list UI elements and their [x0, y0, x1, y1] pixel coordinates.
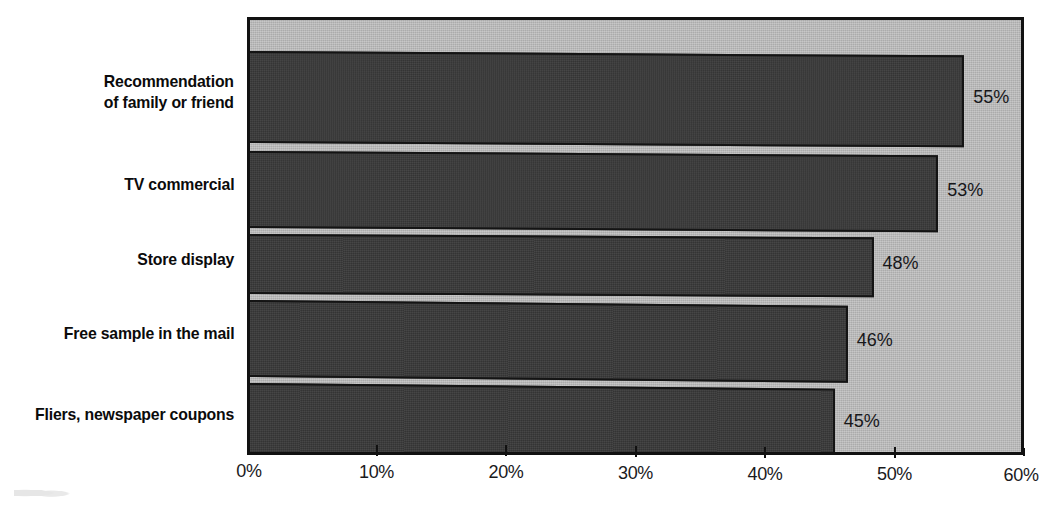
- x-axis-tick-label: 10%: [359, 462, 394, 483]
- category-label-line: Free sample in the mail: [63, 323, 234, 344]
- category-label: TV commercial: [124, 174, 234, 195]
- x-axis-tick-label: 40%: [747, 464, 782, 485]
- category-label-line: Fliers, newspaper coupons: [35, 404, 234, 425]
- x-axis-tick: [1023, 448, 1025, 456]
- bar: [248, 300, 848, 383]
- x-axis-tick-label: 20%: [488, 462, 523, 483]
- category-label-line: of family or friend: [104, 92, 234, 113]
- x-axis-tick: [505, 445, 507, 456]
- category-label: Store display: [137, 249, 234, 270]
- category-label: Free sample in the mail: [63, 323, 234, 344]
- x-axis-tick-label: 60%: [1004, 465, 1039, 486]
- bar-chart: 55%Recommendationof family or friend53%T…: [0, 0, 1055, 506]
- bars-layer: [250, 20, 1021, 452]
- x-axis-tick-label: 0%: [236, 461, 261, 482]
- x-axis-tick: [764, 447, 766, 458]
- bar-value-label: 46%: [857, 330, 893, 351]
- x-axis-tick: [635, 446, 637, 457]
- bar: [248, 151, 938, 232]
- category-label: Fliers, newspaper coupons: [35, 404, 234, 425]
- category-label-line: Store display: [137, 249, 234, 270]
- bar-value-label: 53%: [947, 180, 983, 201]
- bar-value-label: 55%: [973, 87, 1009, 108]
- category-label-line: Recommendation: [104, 71, 234, 92]
- bar: [248, 383, 835, 455]
- bar: [248, 51, 964, 147]
- x-axis-tick: [376, 445, 378, 456]
- x-axis-tick: [894, 447, 896, 458]
- category-label: Recommendationof family or friend: [104, 71, 234, 113]
- bar: [248, 234, 874, 297]
- plot-area: [247, 17, 1024, 455]
- x-axis-tick-label: 50%: [877, 464, 912, 485]
- bar-value-label: 45%: [844, 411, 880, 432]
- category-label-line: TV commercial: [124, 174, 234, 195]
- x-axis-tick-label: 30%: [618, 463, 653, 484]
- scan-artifact: [14, 487, 74, 499]
- bar-value-label: 48%: [883, 253, 919, 274]
